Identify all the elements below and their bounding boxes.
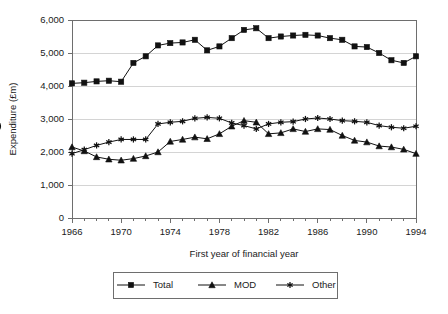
- data-point-square: [82, 80, 87, 85]
- data-point-square: [389, 58, 394, 63]
- data-point-square: [340, 37, 345, 42]
- data-point-square: [180, 40, 185, 45]
- asterisk-center: [267, 123, 269, 125]
- asterisk-center: [108, 141, 110, 143]
- x-axis-tick-label: 1978: [209, 226, 230, 237]
- asterisk-center: [255, 128, 257, 130]
- x-axis-tick-label: 1990: [356, 226, 377, 237]
- asterisk-center: [378, 124, 380, 126]
- x-axis-tick-label: 1970: [111, 226, 132, 237]
- y-axis-tick-label: 3,000: [40, 113, 64, 124]
- data-point-square: [352, 44, 357, 49]
- data-point-square: [155, 43, 160, 48]
- data-point-square: [69, 81, 74, 86]
- x-axis-tick-label: 1986: [307, 226, 328, 237]
- data-point-square: [315, 33, 320, 38]
- data-point-triangle: [69, 144, 75, 150]
- series-line-total: [72, 28, 416, 83]
- asterisk-center: [317, 117, 319, 119]
- x-axis-tick-label: 1994: [405, 226, 426, 237]
- asterisk-center: [169, 121, 171, 123]
- x-axis-tick-labels-group: 19661970197419781982198619901994: [61, 226, 426, 237]
- y-axis-tick-label: 2,000: [40, 146, 64, 157]
- data-point-square: [413, 54, 418, 59]
- data-point-asterisk: [69, 151, 74, 157]
- asterisk-center: [280, 121, 282, 123]
- asterisk-center: [329, 118, 331, 120]
- expenditure-line-chart: 01,0002,0003,0004,0005,0006,000 19661970…: [0, 0, 448, 314]
- legend-label: Total: [153, 279, 173, 290]
- data-point-square: [291, 33, 296, 38]
- data-point-square: [106, 78, 111, 83]
- asterisk-center: [366, 121, 368, 123]
- asterisk-center: [218, 117, 220, 119]
- asterisk-center: [415, 125, 417, 127]
- y-axis-tick-labels-group: 01,0002,0003,0004,0005,0006,000: [40, 14, 64, 223]
- data-point-triangle: [290, 126, 296, 132]
- data-point-triangle: [192, 134, 198, 140]
- data-point-square: [278, 34, 283, 39]
- data-series-group: [0, 26, 419, 163]
- asterisk-center: [95, 144, 97, 146]
- legend-marker-square: [128, 282, 133, 287]
- asterisk-center: [353, 120, 355, 122]
- asterisk-center: [0, 125, 1, 127]
- legend-label: Other: [312, 279, 336, 290]
- data-point-triangle: [351, 137, 357, 143]
- data-point-square: [168, 41, 173, 46]
- data-point-square: [131, 60, 136, 65]
- data-point-square: [119, 79, 124, 84]
- asterisk-center: [71, 153, 73, 155]
- data-point-square: [143, 54, 148, 59]
- data-point-square: [303, 32, 308, 37]
- asterisk-center: [231, 122, 233, 124]
- y-axis-tick-label: 0: [59, 212, 64, 223]
- data-point-triangle: [241, 117, 247, 123]
- data-point-triangle: [216, 131, 222, 137]
- asterisk-center: [132, 138, 134, 140]
- data-point-square: [94, 79, 99, 84]
- data-point-triangle: [413, 150, 419, 156]
- asterisk-center: [289, 284, 291, 286]
- data-point-triangle: [339, 132, 345, 138]
- asterisk-center: [194, 117, 196, 119]
- asterisk-center: [83, 149, 85, 151]
- data-point-square: [401, 60, 406, 65]
- asterisk-center: [181, 120, 183, 122]
- chart-legend: TotalMODOther: [113, 272, 337, 298]
- asterisk-center: [243, 124, 245, 126]
- asterisk-center: [304, 118, 306, 120]
- y-axis-tick-label: 4,000: [40, 80, 64, 91]
- y-axis-tick-label: 5,000: [40, 47, 64, 58]
- data-point-square: [217, 44, 222, 49]
- y-axis-tick-label: 6,000: [40, 14, 64, 25]
- asterisk-center: [157, 123, 159, 125]
- data-point-square: [364, 44, 369, 49]
- x-axis-title: First year of financial year: [190, 248, 299, 259]
- data-point-square: [192, 37, 197, 42]
- data-point-triangle: [93, 154, 99, 160]
- y-axis-title: Expenditure (£m): [7, 83, 18, 156]
- data-point-square: [241, 27, 246, 32]
- asterisk-center: [403, 127, 405, 129]
- data-point-square: [377, 50, 382, 55]
- data-point-square: [327, 36, 332, 41]
- x-axis-tick-label: 1974: [160, 226, 181, 237]
- asterisk-center: [120, 138, 122, 140]
- legend-label: MOD: [234, 279, 256, 290]
- series-total: [69, 26, 418, 86]
- data-point-square: [254, 26, 259, 31]
- x-axis-tick-label: 1966: [61, 226, 82, 237]
- asterisk-center: [145, 138, 147, 140]
- asterisk-center: [292, 120, 294, 122]
- x-axis-tick-label: 1982: [258, 226, 279, 237]
- y-axis-tick-label: 1,000: [40, 179, 64, 190]
- chart-figure: 01,0002,0003,0004,0005,0006,000 19661970…: [0, 0, 448, 314]
- asterisk-center: [341, 120, 343, 122]
- y-axis-ticks-group: [68, 20, 72, 218]
- data-point-asterisk: [0, 123, 1, 129]
- data-point-square: [205, 48, 210, 53]
- asterisk-center: [390, 126, 392, 128]
- asterisk-center: [206, 116, 208, 118]
- data-point-square: [229, 36, 234, 41]
